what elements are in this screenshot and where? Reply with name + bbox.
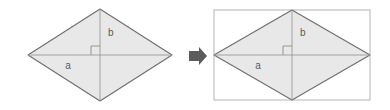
geometry-diagram: a b a b bbox=[0, 0, 390, 110]
transform-arrow-icon bbox=[189, 47, 207, 65]
left-rhombus-group: a b bbox=[28, 9, 172, 101]
label-a-right: a bbox=[255, 60, 261, 71]
right-rhombus-group: a b bbox=[214, 10, 370, 100]
diagram-canvas: a b a b bbox=[0, 0, 390, 110]
label-b-right: b bbox=[300, 27, 306, 38]
label-a-left: a bbox=[65, 60, 71, 71]
label-b-left: b bbox=[108, 27, 114, 38]
arrow-right-icon bbox=[189, 47, 207, 65]
